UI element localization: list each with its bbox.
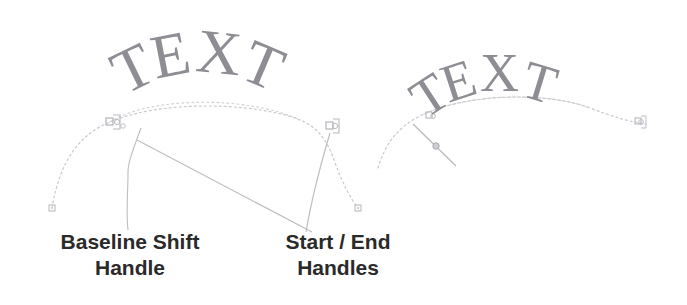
path-anchor-point-core [51, 207, 53, 209]
baseline-shift-handle[interactable] [121, 124, 125, 128]
path-anchor-point-core [357, 207, 359, 209]
right-text-path-crest [424, 97, 590, 114]
leader-line-start-handle [137, 140, 312, 232]
callout-startend-line2: Handles [262, 255, 414, 281]
baseline-shift-handle[interactable] [413, 124, 456, 166]
start-handle[interactable] [106, 115, 120, 129]
callout-baseline-line2: Handle [30, 255, 230, 281]
callout-start-end-handles: Start / End Handles [262, 229, 414, 281]
callout-startend-line1: Start / End [285, 230, 390, 253]
leader-line-end-handle [306, 133, 330, 232]
callout-baseline-shift-handle: Baseline Shift Handle [30, 229, 230, 281]
figure-canvas: TEXT TEXT Baseline Shift Handle Start / … [0, 0, 687, 305]
right-specimen-group [378, 97, 646, 168]
leader-line-baseline-shift [127, 128, 141, 230]
end-handle[interactable] [326, 119, 339, 133]
right-text-path[interactable] [378, 97, 646, 168]
left-text-path[interactable] [52, 106, 358, 208]
left-specimen-group [49, 102, 361, 232]
callout-baseline-line1: Baseline Shift [61, 230, 200, 253]
left-text-path-crest [110, 102, 300, 122]
